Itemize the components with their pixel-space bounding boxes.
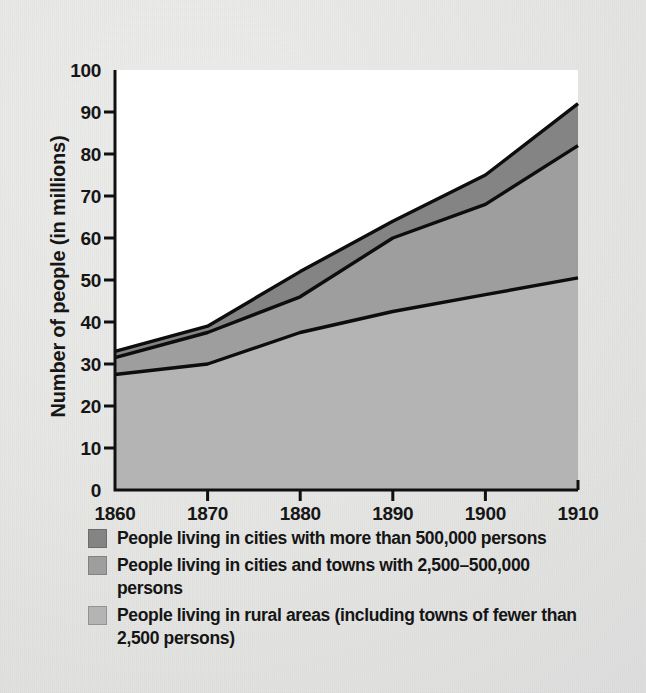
- y-tick-label: 100: [43, 61, 101, 80]
- x-tick-label: 1880: [260, 504, 340, 523]
- y-tick-label: 0: [43, 481, 101, 500]
- population-area-chart-figure: 0102030405060708090100 18601870188018901…: [0, 0, 646, 693]
- x-tick-label: 1900: [445, 504, 525, 523]
- legend-label: People living in cities and towns with 2…: [117, 554, 593, 599]
- legend-label: People living in rural areas (including …: [117, 604, 593, 649]
- legend-item: People living in rural areas (including …: [88, 604, 608, 649]
- x-tick-label: 1890: [353, 504, 433, 523]
- x-tick-label: 1860: [75, 504, 155, 523]
- y-axis-title: Number of people (in millions): [47, 112, 70, 442]
- x-tick-label: 1870: [168, 504, 248, 523]
- legend-swatch-icon: [88, 529, 107, 548]
- legend-label: People living in cities with more than 5…: [117, 527, 546, 549]
- y-tick-label: 10: [43, 439, 101, 458]
- legend-swatch-icon: [88, 556, 107, 575]
- chart-legend: People living in cities with more than 5…: [88, 527, 608, 654]
- y-tick-marks: [104, 112, 115, 448]
- x-tick-marks: [208, 490, 486, 501]
- legend-item: People living in cities and towns with 2…: [88, 554, 608, 599]
- legend-swatch-icon: [88, 606, 107, 625]
- x-tick-label: 1910: [538, 504, 618, 523]
- legend-item: People living in cities with more than 5…: [88, 527, 608, 549]
